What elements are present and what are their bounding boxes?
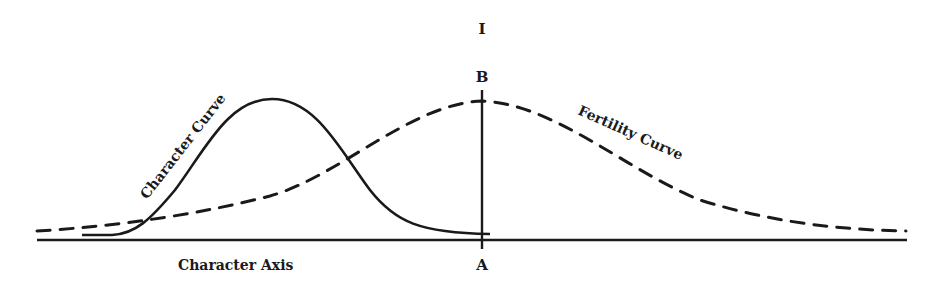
- character-curve: [82, 99, 490, 235]
- fertility-curve-label: Fertility Curve: [576, 102, 686, 163]
- character-fertility-diagram: I B A Character Curve Fertility Curve Ch…: [0, 0, 929, 287]
- point-i-label: I: [478, 20, 485, 38]
- point-b-label: B: [476, 68, 489, 86]
- character-axis-label: Character Axis: [178, 257, 294, 273]
- point-a-label: A: [475, 256, 488, 274]
- character-curve-label: Character Curve: [137, 90, 229, 201]
